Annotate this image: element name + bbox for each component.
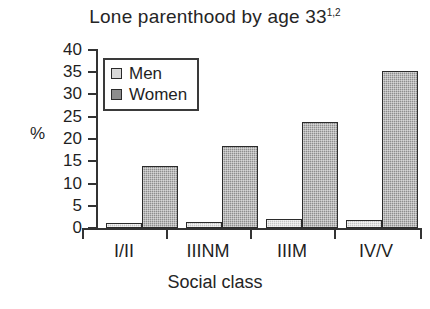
y-tick-10 (88, 183, 97, 185)
y-tick-label-0: 0 (48, 219, 82, 236)
y-axis-title: % (30, 124, 45, 144)
y-tick-40 (88, 49, 97, 51)
x-tick-1 (166, 230, 168, 239)
chart-container: Lone parenthood by age 331,2 % 40 35 30 … (0, 0, 430, 309)
x-tick-4 (420, 230, 422, 239)
legend-swatch-men-icon (111, 68, 122, 79)
y-tick-label-20: 20 (48, 130, 82, 147)
legend-item-women[interactable]: Women (111, 84, 187, 105)
y-tick-label-40: 40 (48, 41, 82, 58)
bar-men-iv-v[interactable] (346, 220, 382, 228)
x-tick-label-iv-v: IV/V (331, 241, 421, 262)
chart-legend: Men Women (103, 58, 199, 111)
y-tick-5 (88, 205, 97, 207)
x-axis-line (82, 228, 422, 230)
y-tick-label-25: 25 (48, 108, 82, 125)
y-tick-label-35: 35 (48, 63, 82, 80)
chart-title-superscript: 1,2 (327, 7, 341, 18)
chart-title: Lone parenthood by age 331,2 (0, 6, 430, 28)
bar-women-iiim[interactable] (302, 122, 338, 228)
x-tick-label-iiim: IIIM (247, 241, 337, 262)
legend-item-men[interactable]: Men (111, 63, 187, 84)
x-tick-3 (334, 230, 336, 239)
legend-swatch-women-icon (111, 89, 122, 100)
bar-women-i-ii[interactable] (142, 166, 178, 228)
x-axis-title: Social class (0, 272, 430, 293)
y-tick-25 (88, 116, 97, 118)
bar-women-iiinm[interactable] (222, 146, 258, 228)
legend-label-women: Women (129, 86, 187, 103)
x-tick-label-i-ii: I/II (79, 241, 169, 262)
y-tick-label-10: 10 (48, 175, 82, 192)
x-tick-2 (250, 230, 252, 239)
y-tick-label-5: 5 (48, 197, 82, 214)
bar-men-iiim[interactable] (266, 219, 302, 228)
y-tick-35 (88, 71, 97, 73)
legend-label-men: Men (129, 65, 162, 82)
y-tick-label-15: 15 (48, 152, 82, 169)
x-tick-0 (82, 230, 84, 239)
y-tick-30 (88, 93, 97, 95)
y-tick-15 (88, 160, 97, 162)
bar-women-iv-v[interactable] (382, 71, 418, 228)
y-tick-label-30: 30 (48, 85, 82, 102)
x-tick-label-iiinm: IIINM (163, 241, 253, 262)
y-tick-20 (88, 138, 97, 140)
chart-title-text: Lone parenthood by age 33 (89, 6, 326, 27)
